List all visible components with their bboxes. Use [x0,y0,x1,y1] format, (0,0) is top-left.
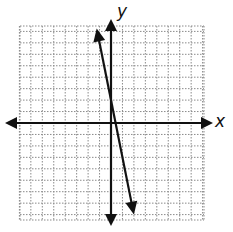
y-axis-label: y [117,3,127,20]
x-axis-left-arrow-icon [5,117,17,129]
x-axis-label: x [215,113,225,130]
y-axis-bottom-arrow-icon [105,214,117,226]
line-lower-arrow-icon [125,201,137,215]
x-axis-right-arrow-icon [201,117,213,129]
coordinate-plane [0,0,233,232]
y-axis-top-arrow-icon [105,19,117,31]
line-segment [99,39,132,205]
axes [5,19,213,226]
line-upper-arrow-icon [93,29,105,43]
